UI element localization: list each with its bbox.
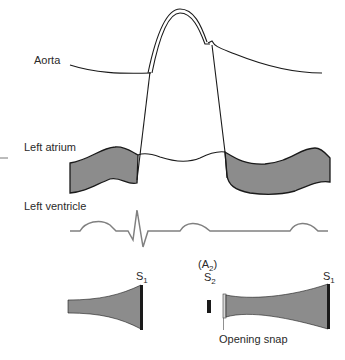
label-left-ventricle: Left ventricle <box>24 200 86 212</box>
label-aorta: Aorta <box>34 54 60 66</box>
label-opening-snap: Opening snap <box>219 333 288 345</box>
atrial-pressure-line <box>138 152 225 162</box>
left-ventricle-pressure-down <box>212 45 227 178</box>
s2-bar <box>207 300 211 313</box>
label-left-atrium: Left atrium <box>24 141 76 153</box>
aorta-pressure-line-left <box>70 65 151 73</box>
label-s2: S2 <box>204 271 216 288</box>
s1-left-bar <box>140 285 143 330</box>
label-s1-left: S1 <box>136 270 148 287</box>
left-atrium-band-left <box>70 147 138 193</box>
aorta-pressure-line-right <box>208 41 322 73</box>
aorta-arc-outer <box>148 9 207 73</box>
left-ventricle-pressure-line <box>137 72 150 180</box>
murmur-presystolic <box>68 285 141 329</box>
ecg-trace <box>70 210 328 247</box>
left-atrium-band-right <box>225 148 330 194</box>
label-s1-right: S1 <box>323 270 335 287</box>
aorta-arc-inner <box>152 13 210 73</box>
opening-snap-bar <box>223 294 226 318</box>
murmur-diastolic <box>226 284 328 329</box>
s1-right-bar <box>327 284 330 329</box>
